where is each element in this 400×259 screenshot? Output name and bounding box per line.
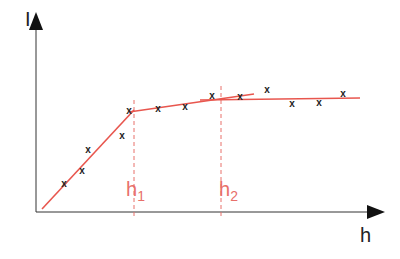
data-point-x-icon: x [79, 165, 85, 176]
x-axis-label: h [360, 224, 371, 247]
data-point-x-icon: x [340, 88, 346, 99]
plot-canvas: xxxxxxxxxxxxx [0, 0, 400, 259]
data-point-x-icon: x [119, 130, 125, 141]
h2-label: h2 [219, 178, 238, 204]
x-axis-arrow-icon [367, 205, 385, 219]
y-axis-label: I [25, 8, 31, 31]
data-point-x-icon: x [289, 98, 295, 109]
data-point-x-icon: x [126, 105, 132, 116]
data-point-x-icon: x [316, 97, 322, 108]
diagram: xxxxxxxxxxxxx I h h1 h2 [0, 0, 400, 259]
data-point-x-icon: x [182, 101, 188, 112]
h1-label: h1 [126, 178, 145, 204]
fit-segment [42, 110, 134, 209]
data-point-x-icon: x [85, 144, 91, 155]
data-point-x-icon: x [237, 91, 243, 102]
fit-segment [129, 94, 254, 112]
y-axis-arrow-icon [29, 12, 43, 30]
data-point-x-icon: x [61, 178, 67, 189]
data-point-x-icon: x [155, 103, 161, 114]
data-point-x-icon: x [209, 90, 215, 101]
data-point-x-icon: x [264, 84, 270, 95]
